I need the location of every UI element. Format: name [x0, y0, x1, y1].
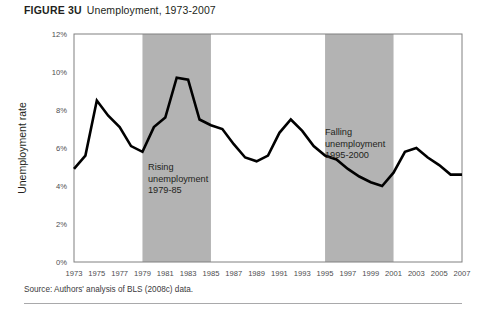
x-tick-label: 2007 — [454, 269, 471, 277]
annotation-line: unemployment — [325, 139, 386, 149]
annotation-line: 1979-85 — [148, 185, 182, 195]
y-tick-label: 2% — [56, 220, 67, 229]
y-axis-tick-labels: 0%2%4%6%8%10%12% — [52, 30, 67, 267]
unemployment-series-line — [74, 78, 462, 186]
y-tick-label: 0% — [56, 258, 67, 267]
figure-title: FIGURE 3UUnemployment, 1973-2007 — [24, 4, 216, 16]
x-tick-label: 1981 — [157, 269, 174, 277]
annotation-line: 1995-2000 — [325, 150, 369, 160]
figure-container: FIGURE 3UUnemployment, 1973-2007 0%2%4%6… — [0, 0, 486, 311]
x-tick-label: 1999 — [362, 269, 379, 277]
unemployment-rate-polyline — [74, 78, 462, 186]
source-note: Source: Authors' analysis of BLS (2008c)… — [24, 285, 193, 294]
x-tick-label: 1997 — [339, 269, 356, 277]
x-tick-label: 1989 — [248, 269, 265, 277]
x-tick-label: 1987 — [225, 269, 242, 277]
y-tick-label: 8% — [56, 106, 67, 115]
chart-plot-area: 0%2%4%6%8%10%12% 19731975197719791981198… — [0, 22, 486, 277]
x-tick-label: 2005 — [431, 269, 448, 277]
y-axis-title-text: Unemployment rate — [16, 102, 28, 194]
annotation-line: Falling — [325, 127, 352, 137]
x-tick-label: 1983 — [180, 269, 197, 277]
bottom-divider — [24, 303, 462, 304]
x-tick-label: 2001 — [385, 269, 402, 277]
x-tick-label: 2003 — [408, 269, 425, 277]
rising-band — [142, 34, 210, 262]
x-axis-tick-labels: 1973197519771979198119831985198719891991… — [66, 269, 471, 277]
x-tick-label: 1991 — [271, 269, 288, 277]
y-tick-label: 10% — [52, 68, 67, 77]
y-axis-title: Unemployment rate — [16, 102, 28, 194]
x-tick-label: 1985 — [202, 269, 219, 277]
unemployment-line-chart: 0%2%4%6%8%10%12% 19731975197719791981198… — [0, 22, 486, 277]
y-tick-label: 12% — [52, 30, 67, 39]
y-tick-label: 4% — [56, 182, 67, 191]
x-tick-label: 1973 — [66, 269, 83, 277]
annotation-line: Rising — [148, 162, 174, 172]
annotation-line: unemployment — [148, 174, 209, 184]
figure-number: FIGURE 3U — [24, 4, 82, 16]
x-tick-label: 1977 — [111, 269, 128, 277]
x-tick-label: 1995 — [317, 269, 334, 277]
y-tick-label: 6% — [56, 144, 67, 153]
x-tick-label: 1979 — [134, 269, 151, 277]
x-tick-label: 1993 — [294, 269, 311, 277]
x-tick-label: 1975 — [88, 269, 105, 277]
figure-label: Unemployment, 1973-2007 — [87, 4, 216, 16]
